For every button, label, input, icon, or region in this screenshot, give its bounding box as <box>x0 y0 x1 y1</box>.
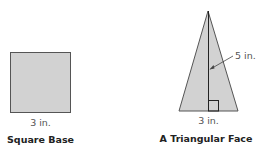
triangular-face-figure: 5 in. 3 in. A Triangular Face <box>160 11 256 144</box>
height-label: 5 in. <box>235 50 256 61</box>
square-shape <box>11 53 71 113</box>
triangle-base-label: 3 in. <box>198 115 219 126</box>
triangle-caption: A Triangular Face <box>160 133 253 144</box>
diagram-canvas: 3 in. Square Base 5 in. 3 in. A Triangul… <box>0 0 272 157</box>
square-base-figure: 3 in. Square Base <box>7 53 74 146</box>
square-caption: Square Base <box>7 134 74 145</box>
square-side-label: 3 in. <box>30 117 51 128</box>
